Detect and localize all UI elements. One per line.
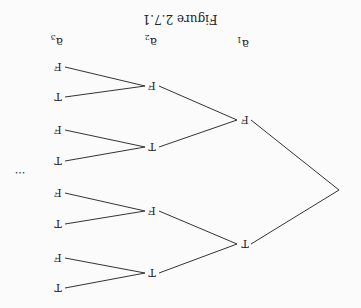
edge [65,193,145,211]
node-a3-4: T [54,154,62,167]
edge [251,120,339,190]
node-a3-3: F [54,186,62,199]
edge [65,211,145,224]
figure-canvas: T F T F T F T F T F T F T F ... a1 a2 a3… [0,0,361,308]
column-label-a2: a2 [145,33,157,49]
ellipsis: ... [15,169,26,182]
edge [159,211,237,244]
column-label-a1: a1 [237,35,249,51]
column-label-a3: a3 [51,33,63,49]
node-a3-1: F [54,251,62,264]
figure-title: Figure 2.7.1 [143,12,218,26]
node-a3-0: T [54,281,62,294]
edge [65,147,145,161]
node-a2-2: T [148,140,156,153]
edge [159,244,237,273]
edge [251,190,339,244]
rotated-figure: T F T F T F T F T F T F T F ... a1 a2 a3… [0,0,361,308]
edge [65,86,145,97]
edge [65,67,145,86]
edge [65,258,145,273]
node-a3-6: T [54,90,62,103]
edge [159,120,237,147]
edge [159,86,237,120]
node-a1-0: T [241,237,249,250]
node-a2-1: F [148,204,156,217]
edge [65,130,145,147]
node-a2-3: F [148,79,156,92]
truth-tree-diagram: T F T F T F T F T F T F T F ... a1 a2 a3… [0,0,361,308]
edge [65,273,145,288]
node-a3-7: F [54,60,62,73]
node-a2-0: T [148,266,156,279]
node-a3-5: F [54,123,62,136]
node-a1-1: F [241,113,249,126]
node-a3-2: T [54,217,62,230]
